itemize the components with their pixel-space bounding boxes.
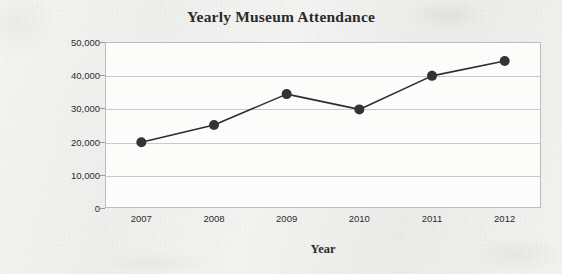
data-point-marker [136, 137, 146, 147]
data-series-layer [0, 0, 562, 274]
data-point-marker [500, 56, 510, 66]
chart-page: Yearly Museum Attendance Attendance 010,… [0, 0, 562, 274]
x-axis-title: Year [105, 242, 541, 257]
data-point-marker [282, 89, 292, 99]
attendance-line [141, 61, 504, 142]
data-point-marker [354, 104, 364, 114]
data-point-marker [427, 71, 437, 81]
data-point-marker [209, 120, 219, 130]
